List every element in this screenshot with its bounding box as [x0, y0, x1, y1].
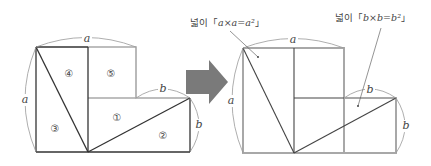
- region-3: ③: [51, 123, 60, 134]
- left-label-top: a: [84, 32, 91, 45]
- left-diagonal-a: [36, 47, 88, 152]
- region-1: ①: [113, 112, 122, 123]
- diagram-canvas: a a b b ① ② ③ ④ ⑤: [0, 0, 431, 166]
- annotation-b-squared: 넓이「b×b=b²」: [335, 12, 411, 23]
- region-5: ⑤: [107, 68, 116, 79]
- right-outer-outline: [243, 48, 396, 153]
- right-label-top: a: [290, 33, 297, 46]
- right-label-left: a: [228, 94, 235, 107]
- left-label-left: a: [22, 93, 29, 106]
- left-label-step: b: [159, 82, 166, 95]
- left-figure: a a b b ① ② ③ ④ ⑤: [21, 32, 204, 152]
- annotation-a-squared: 넓이「a×a=a²」: [190, 17, 265, 28]
- arrow-right-icon: [186, 60, 228, 104]
- leader-a-dot: [257, 56, 259, 58]
- right-label-right: b: [402, 119, 409, 132]
- region-2: ②: [159, 130, 168, 141]
- right-label-step: b: [366, 83, 373, 96]
- left-label-right: b: [195, 118, 202, 131]
- region-4: ④: [65, 68, 74, 79]
- right-diagonal-a: [243, 48, 294, 153]
- left-diagonal-b: [88, 98, 190, 152]
- leader-b-dot: [357, 105, 359, 107]
